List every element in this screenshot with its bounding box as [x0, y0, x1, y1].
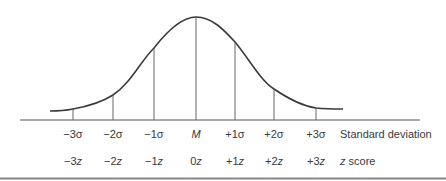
z-symbol: z [239, 155, 245, 167]
sd-label-minus1: −1σ [144, 128, 163, 140]
z-symbol: z [196, 155, 202, 167]
z-label-zero: 0z [190, 155, 202, 167]
sd-label-minus3: −3σ [63, 128, 82, 140]
z-symbol: z [158, 155, 164, 167]
mean-label: M [191, 128, 200, 140]
z-label-plus1: +1z [226, 155, 244, 167]
bell-curve [50, 17, 343, 111]
score-word: score [346, 155, 376, 167]
sd-label-minus2: −2σ [103, 128, 122, 140]
z-label-plus3: +3z [307, 155, 325, 167]
row-title-standard-deviation: Standard deviation [340, 128, 432, 140]
z-label-minus1: −1z [145, 155, 163, 167]
z-symbol: z [117, 155, 123, 167]
sd-label-plus2: +2σ [264, 128, 283, 140]
z-label-plus2: +2z [265, 155, 283, 167]
z-symbol: z [320, 155, 326, 167]
z-symbol: z [77, 155, 83, 167]
sd-label-plus1: +1σ [225, 128, 244, 140]
z-symbol: z [278, 155, 284, 167]
sd-label-plus3: +3σ [306, 128, 325, 140]
row-title-z-score: z score [340, 155, 375, 167]
sd-marker-lines [73, 17, 316, 120]
normal-curve-diagram [0, 0, 446, 181]
z-label-minus2: −2z [104, 155, 122, 167]
z-label-minus3: −3z [64, 155, 82, 167]
